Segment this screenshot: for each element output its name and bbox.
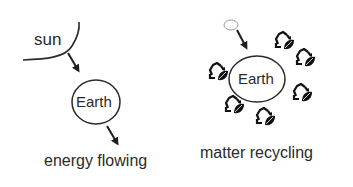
recycle-icon — [257, 108, 275, 125]
sun-label: sun — [34, 30, 61, 50]
recycle-icon — [297, 49, 315, 66]
earth-label-left: Earth — [76, 93, 112, 110]
sun-to-earth-arrow — [68, 53, 78, 70]
recycle-icon — [276, 32, 294, 49]
recycle-icon — [210, 63, 228, 80]
small-sun-ellipse — [224, 20, 238, 30]
earth-outflow-arrow — [107, 126, 117, 143]
matter-recycling-caption: matter recycling — [200, 144, 313, 162]
sun-to-earth-arrow-right — [237, 30, 246, 47]
earth-label-right: Earth — [238, 70, 274, 87]
energy-flowing-caption: energy flowing — [44, 152, 147, 170]
recycle-icon — [294, 84, 312, 101]
